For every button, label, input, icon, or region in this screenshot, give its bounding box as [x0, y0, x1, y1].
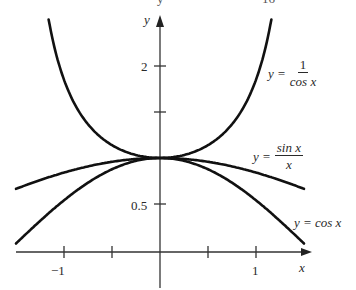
cropped-text-left: y — [157, 0, 164, 7]
y-tick-label-0-5: 0.5 — [131, 199, 147, 212]
label-secant-lhs: y = — [268, 67, 286, 80]
label-sinc: y = sin x x — [253, 141, 303, 171]
x-tick-label-1: 1 — [252, 264, 259, 277]
numerator: sin x — [275, 141, 303, 156]
fraction: sin x x — [275, 141, 303, 171]
fraction: 1 cos x — [290, 58, 316, 88]
denominator: x — [286, 156, 292, 171]
numerator: 1 — [298, 58, 309, 73]
cropped-text-right: 16 — [262, 0, 275, 7]
x-axis-label: x — [299, 261, 305, 274]
y-tick-label-2: 2 — [141, 60, 148, 73]
denominator: cos x — [290, 73, 316, 88]
y-axis-label: y — [144, 13, 150, 26]
x-tick-label-neg1: −1 — [51, 264, 65, 277]
label-cosine: y = cos x — [294, 216, 341, 229]
label-secant: y = 1 cos x — [268, 58, 316, 88]
x-axis-arrow-icon — [301, 248, 312, 256]
y-axis-arrow-icon — [156, 15, 164, 27]
label-sinc-lhs: y = — [253, 150, 271, 163]
